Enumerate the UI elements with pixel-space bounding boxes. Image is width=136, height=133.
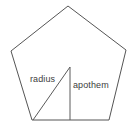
radius-label: radius — [30, 74, 55, 84]
apothem-label: apothem — [73, 80, 109, 90]
pentagon-diagram: radius apothem — [0, 0, 136, 133]
pentagon-diagram-svg — [0, 0, 136, 133]
pentagon-shape — [11, 6, 126, 120]
